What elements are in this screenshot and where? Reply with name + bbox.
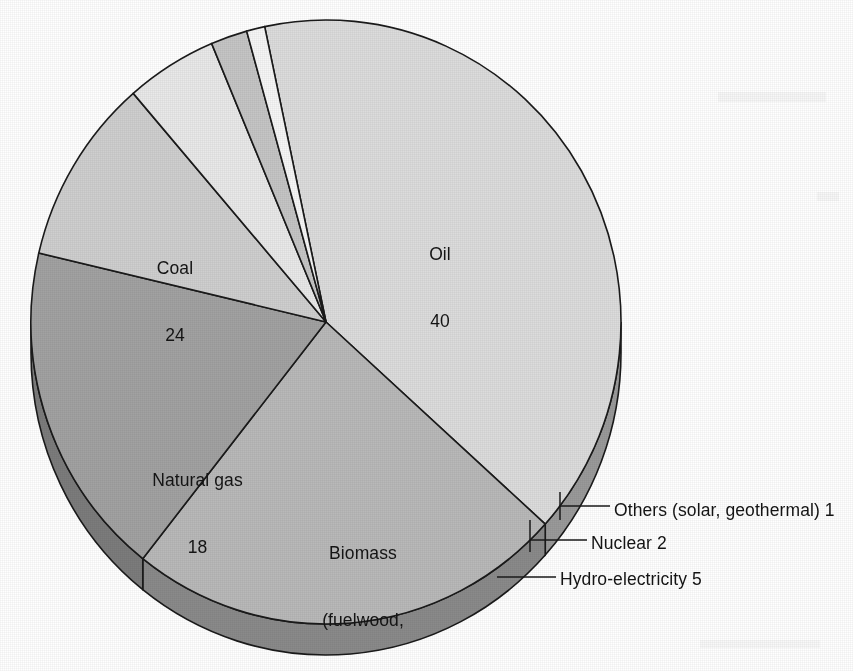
pie-chart-canvas bbox=[0, 0, 853, 671]
pie-top-surface bbox=[31, 20, 621, 624]
callout-label-others: Others (solar, geothermal) 1 bbox=[614, 500, 835, 521]
callout-label-nuclear: Nuclear 2 bbox=[591, 533, 667, 554]
callout-label-hydro: Hydro-electricity 5 bbox=[560, 569, 702, 590]
pie-chart-figure: Oil 40 Coal 24 Natural gas 18 Biomass (f… bbox=[0, 0, 853, 671]
